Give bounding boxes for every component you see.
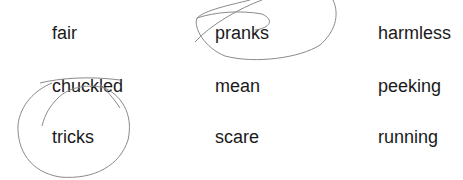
word-chuckled: chuckled <box>52 77 123 95</box>
word-pranks: pranks <box>215 24 269 42</box>
word-tricks: tricks <box>52 128 94 146</box>
word-mean: mean <box>215 77 260 95</box>
word-scare: scare <box>215 128 259 146</box>
word-harmless: harmless <box>378 24 451 42</box>
word-peeking: peeking <box>378 77 441 95</box>
word-fair: fair <box>52 24 77 42</box>
word-running: running <box>378 128 438 146</box>
